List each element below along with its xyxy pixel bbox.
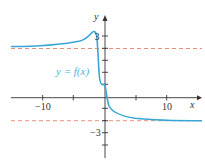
- x-tick-label-10: 10: [162, 101, 172, 112]
- y-axis-arrow: [103, 15, 108, 21]
- x-axis-arrow: [197, 95, 202, 100]
- chart: −10 10 x y 3 −3 y = f(x): [0, 0, 205, 163]
- x-axis-label: x: [189, 99, 195, 110]
- y-axis-label: y: [93, 11, 99, 22]
- x-tick-label-neg10: −10: [35, 101, 51, 112]
- y-tick-label-neg3: −3: [90, 127, 101, 138]
- y-tick-label-top: 3: [95, 31, 100, 42]
- curve-label: y = f(x): [55, 65, 89, 78]
